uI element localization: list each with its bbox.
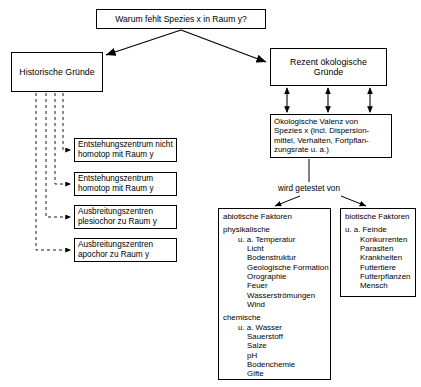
abiotic-title: abiotische Faktoren xyxy=(223,212,326,221)
abiotic-physical-item: Feuer xyxy=(223,281,326,290)
dashed-branch-4 xyxy=(36,93,71,250)
historical-item-2-line1: Entstehungszentrum xyxy=(78,174,173,184)
historical-item-1-line2: homotop mit Raum y xyxy=(78,150,173,160)
valence-line-4: zungsrate u. a.) xyxy=(274,145,388,154)
node-historical-item-2[interactable]: Entstehungszentrum homotop mit Raum y xyxy=(74,172,177,196)
valence-line-2: Spezies x (incl. Dispersion- xyxy=(274,126,388,135)
biotic-title: biotische Faktoren xyxy=(345,212,411,221)
node-ecological-valence[interactable]: Ökologische Valenz von Spezies x (incl. … xyxy=(270,114,392,158)
valence-line-1: Ökologische Valenz von xyxy=(274,117,388,126)
abiotic-chemical-item: Sauerstoff xyxy=(223,332,326,341)
arrow-tested-to-biotic xyxy=(341,196,366,206)
node-biotic-factors[interactable]: biotische Faktoren u. a. Feinde Konkurre… xyxy=(340,208,416,297)
node-historical-item-3[interactable]: Ausbreitungszentren plesiochor zu Raum y xyxy=(74,205,177,229)
abiotic-physical-item: Wasserströmungen xyxy=(223,291,326,300)
label-tested-by: wird getestet von xyxy=(259,184,359,193)
biotic-item: Mensch xyxy=(345,281,411,290)
dashed-branch-1 xyxy=(63,93,71,150)
node-recent-label-line2: Gründe xyxy=(314,67,343,77)
biotic-item: Parasiten xyxy=(345,244,411,253)
node-question[interactable]: Warum fehlt Spezies x in Raum y? xyxy=(96,9,266,29)
historical-item-2-line2: homotop mit Raum y xyxy=(78,184,173,194)
historical-item-4-line2: apochor zu Raum y xyxy=(78,250,173,260)
abiotic-physical-item: Orographie xyxy=(223,272,326,281)
abiotic-physical-item: Wind xyxy=(223,300,326,309)
abiotic-chemical-item: Bodenchemie xyxy=(223,360,326,369)
abiotic-physical-item: Bodenstruktur xyxy=(223,253,326,262)
node-recent-ecological-reasons[interactable]: Rezent ökologische Gründe xyxy=(270,48,387,86)
arrow-tested-to-abiotic xyxy=(275,196,300,206)
arrow-question-to-recent xyxy=(181,30,266,62)
biotic-item: Futterpflanzen xyxy=(345,272,411,281)
abiotic-group-physical-label: physikalische xyxy=(223,225,326,234)
abiotic-physical-item: Geologische Formation xyxy=(223,263,326,272)
node-abiotic-factors[interactable]: abiotische Faktoren physikalische u. a. … xyxy=(218,208,331,380)
biotic-item: Krankheiten xyxy=(345,253,411,262)
abiotic-group-chemical-lead: u. a. Wasser xyxy=(223,323,326,332)
historical-item-3-line2: plesiochor zu Raum y xyxy=(78,217,173,227)
valence-line-3: mittel, Verhalten, Fortpflan- xyxy=(274,136,388,145)
biotic-item: Konkurrenten xyxy=(345,235,411,244)
dashed-branch-3 xyxy=(46,93,71,217)
abiotic-group-chemical-label: chemische xyxy=(223,313,326,322)
historical-item-1-line1: Entstehungszentrum nicht xyxy=(78,140,173,150)
abiotic-chemical-item: Gifte xyxy=(223,369,326,378)
abiotic-chemical-item: pH xyxy=(223,351,326,360)
node-historical-item-4[interactable]: Ausbreitungszentren apochor zu Raum y xyxy=(74,238,177,262)
abiotic-chemical-item: Salze xyxy=(223,341,326,350)
abiotic-physical-item: Licht xyxy=(223,244,326,253)
arrow-question-to-historical xyxy=(106,30,181,55)
historical-item-3-line1: Ausbreitungszentren xyxy=(78,207,173,217)
node-historical-label: Historische Gründe xyxy=(19,67,94,77)
diagram-canvas: Warum fehlt Spezies x in Raum y? Histori… xyxy=(0,0,421,387)
node-historical-item-1[interactable]: Entstehungszentrum nicht homotop mit Rau… xyxy=(74,138,177,162)
node-question-label: Warum fehlt Spezies x in Raum y? xyxy=(115,14,247,24)
biotic-lead: u. a. Feinde xyxy=(345,225,411,234)
abiotic-group-physical-lead: u. a. Temperatur xyxy=(223,235,326,244)
node-recent-label-line1: Rezent ökologische xyxy=(290,57,367,67)
node-historical-reasons[interactable]: Historische Gründe xyxy=(11,52,103,92)
biotic-item: Futtertiere xyxy=(345,263,411,272)
historical-item-4-line1: Ausbreitungszentren xyxy=(78,240,173,250)
